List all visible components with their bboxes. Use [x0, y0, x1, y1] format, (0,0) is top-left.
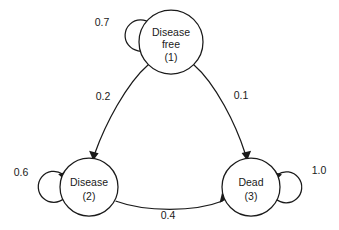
- state-node-disease-free-line2: free: [162, 38, 180, 50]
- state-transition-diagram: Disease free (1) Disease (2) Dead (3) 0.…: [0, 0, 339, 230]
- edge-state1-to-state3: [194, 65, 252, 161]
- transition-label-0.6: 0.6: [14, 166, 29, 178]
- edge-state1-to-state3-path: [194, 65, 246, 154]
- transition-label-0.4: 0.4: [161, 209, 176, 221]
- state-node-disease-free[interactable]: Disease free (1): [139, 10, 203, 74]
- state-node-disease-free-line1: Disease: [152, 26, 190, 38]
- state-node-disease-line1: Disease: [70, 176, 108, 188]
- transition-label-0.1: 0.1: [234, 89, 249, 101]
- edge-state1-to-state2-path: [95, 65, 149, 154]
- transition-label-1.0: 1.0: [312, 164, 327, 176]
- transition-label-0.7: 0.7: [95, 16, 110, 28]
- state-node-dead[interactable]: Dead (3): [222, 158, 280, 216]
- state-node-dead-index: (3): [245, 190, 258, 202]
- edge-state2-to-state3: [116, 193, 230, 209]
- state-node-disease[interactable]: Disease (2): [60, 158, 118, 216]
- state-node-disease-index: (2): [83, 190, 96, 202]
- transition-label-0.2: 0.2: [96, 90, 111, 102]
- state-node-dead-line1: Dead: [238, 176, 263, 188]
- diagram-svg-canvas: Disease free (1) Disease (2) Dead (3) 0.…: [0, 0, 339, 230]
- state-node-disease-free-index: (1): [165, 51, 178, 63]
- edge-state1-to-state2: [89, 65, 148, 161]
